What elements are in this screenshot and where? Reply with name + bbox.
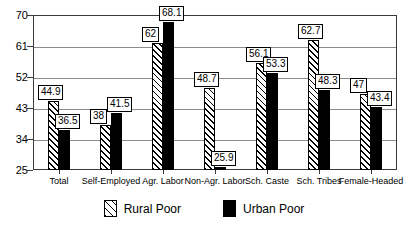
- bar-value-label: 41.5: [107, 97, 132, 112]
- bar-urban: [319, 90, 330, 170]
- bar-chart: 253443526170 44.936.53841.56268.148.725.…: [0, 0, 408, 234]
- bar-value-label: 62: [142, 27, 159, 42]
- bar-value-label: 53.3: [263, 57, 288, 72]
- legend-entry: Rural Poor: [104, 200, 181, 217]
- x-axis-tick-label: Sch. Caste: [245, 176, 289, 186]
- bar-value-label: 48.7: [194, 72, 219, 87]
- bar-urban: [371, 107, 382, 170]
- bar-rural: [100, 125, 111, 170]
- bar-value-label: 25.9: [211, 151, 236, 166]
- y-axis-tick-label: 52: [4, 72, 28, 83]
- y-axis-tick-label: 43: [4, 103, 28, 114]
- x-axis-tick-label: Self-Employed: [82, 176, 141, 186]
- x-axis: TotalSelf-EmployedAgr. LaborNon-Agr. Lab…: [33, 170, 397, 196]
- bar-group: 44.936.5: [48, 15, 70, 170]
- bar-value-label: 47: [350, 78, 367, 93]
- legend-entry: Urban Poor: [223, 200, 304, 217]
- legend-label: Rural Poor: [124, 203, 181, 215]
- bar-group: 48.725.9: [204, 15, 226, 170]
- bar-urban: [111, 113, 122, 170]
- x-axis-tick-label: Total: [49, 176, 68, 186]
- bar-value-label: 36.5: [55, 114, 80, 129]
- bar-rural: [256, 63, 267, 170]
- bar-value-label: 48.3: [315, 74, 340, 89]
- x-axis-tick-label: Sch. Tribes: [296, 176, 341, 186]
- solid-black-swatch: [223, 200, 236, 217]
- bar-rural: [48, 101, 59, 170]
- hatched-swatch: [104, 200, 117, 217]
- x-axis-tick-mark: [267, 170, 268, 174]
- bar-value-label: 68.1: [159, 6, 184, 21]
- bar-value-label: 44.9: [38, 85, 63, 100]
- x-axis-tick-label: Agr. Labor: [142, 176, 184, 186]
- x-axis-tick-mark: [319, 170, 320, 174]
- y-axis-tick-label: 61: [4, 41, 28, 52]
- bars-layer: 44.936.53841.56268.148.725.956.153.362.7…: [33, 15, 397, 170]
- x-axis-tick-mark: [371, 170, 372, 174]
- bar-group: 56.153.3: [256, 15, 278, 170]
- bar-value-label: 43.4: [367, 91, 392, 106]
- x-axis-tick-mark: [163, 170, 164, 174]
- bar-value-label: 38: [90, 109, 107, 124]
- y-axis: 253443526170: [0, 0, 28, 234]
- y-axis-tick-label: 70: [4, 10, 28, 21]
- bar-group: 62.748.3: [308, 15, 330, 170]
- legend-label: Urban Poor: [243, 203, 304, 215]
- bar-urban: [267, 73, 278, 170]
- x-axis-tick-mark: [215, 170, 216, 174]
- bar-value-label: 62.7: [298, 24, 323, 39]
- bar-urban: [163, 22, 174, 170]
- bar-rural: [152, 43, 163, 170]
- bar-urban: [59, 130, 70, 170]
- y-axis-tick-label: 34: [4, 134, 28, 145]
- x-axis-tick-mark: [59, 170, 60, 174]
- bar-group: 3841.5: [100, 15, 122, 170]
- bar-rural: [308, 40, 319, 170]
- x-axis-tick-mark: [111, 170, 112, 174]
- y-axis-tick-label: 25: [4, 165, 28, 176]
- x-axis-tick-label: Female-Headed: [339, 176, 404, 186]
- x-axis-tick-label: Non-Agr. Labor: [184, 176, 245, 186]
- bar-group: 4743.4: [360, 15, 382, 170]
- chart-legend: Rural PoorUrban Poor: [0, 200, 408, 217]
- bar-group: 6268.1: [152, 15, 174, 170]
